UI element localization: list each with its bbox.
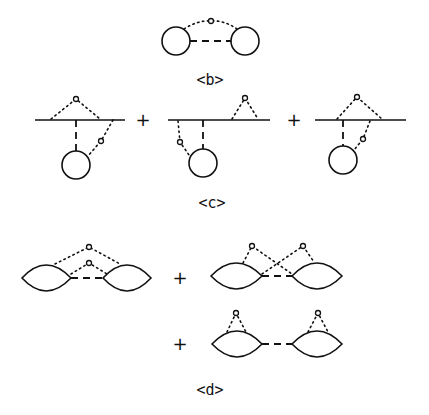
diagram-d-2 [211,244,342,290]
plus-operator: + [286,109,301,130]
diagram-c-3 [315,95,406,175]
diagram-d-3 [212,311,342,358]
label-b: <b> [196,71,223,89]
diagram-c-2 [168,96,270,178]
label-c: <c> [198,194,225,212]
diagram-d-1 [22,245,151,292]
diagram-b: <b> [162,19,259,90]
diagram-c-1 [35,97,125,180]
feynman-diagram-figure: <b> + + <c> + [0,0,429,415]
label-d: <d> [196,381,223,399]
plus-operator: + [172,333,187,354]
plus-operator: + [135,109,150,130]
plus-operator: + [172,267,187,288]
